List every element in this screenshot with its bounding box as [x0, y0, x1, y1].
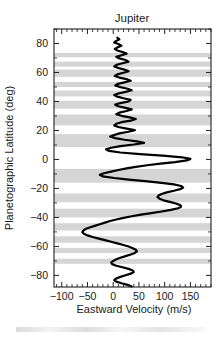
x-tick-label: −50 [79, 290, 97, 302]
belt-band [54, 62, 211, 67]
figure-panel: −100−50050100150 806040200−20−40−60−80 J… [0, 0, 221, 338]
belt-band [54, 53, 211, 57]
x-tick-label: 100 [156, 290, 174, 302]
belt-band [54, 223, 211, 230]
y-tick-label: −80 [30, 269, 48, 281]
caption-fragment [16, 327, 206, 332]
x-tick-label: 0 [110, 290, 116, 302]
y-tick-label: 20 [36, 124, 48, 136]
x-axis-title: Eastward Velocity (m/s) [77, 303, 192, 315]
belt-band [54, 259, 211, 264]
jupiter-velocity-chart: −100−50050100150 806040200−20−40−60−80 J… [0, 0, 221, 338]
y-tick-label: −60 [30, 240, 48, 252]
chart-title: Jupiter [115, 12, 150, 24]
y-tick-label: 80 [36, 37, 48, 49]
y-tick-label: 60 [36, 66, 48, 78]
x-tick-label: 50 [133, 290, 145, 302]
belt-band [54, 70, 211, 77]
belt-band [54, 236, 211, 243]
y-tick-label: −40 [30, 211, 48, 223]
y-axis-title: Planetographic Latitude (deg) [3, 86, 15, 230]
x-tick-label: −100 [50, 290, 74, 302]
x-tick-label: 150 [182, 290, 200, 302]
y-tick-label: 0 [42, 153, 48, 165]
x-axis-tick-labels: −100−50050100150 [50, 290, 199, 302]
belt-band [54, 101, 211, 109]
belt-band [54, 194, 211, 203]
belt-band [54, 82, 211, 87]
y-axis-tick-labels: 806040200−20−40−60−80 [30, 37, 48, 281]
y-tick-label: 40 [36, 95, 48, 107]
y-tick-label: −20 [30, 182, 48, 194]
belt-band [54, 91, 211, 97]
